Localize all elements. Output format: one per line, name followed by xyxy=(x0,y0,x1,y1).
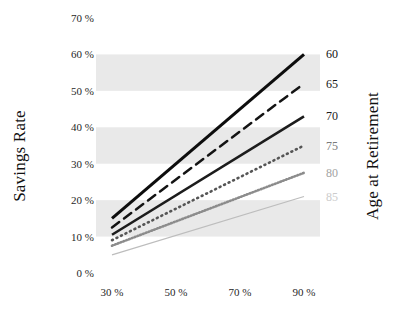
background-band xyxy=(96,127,320,163)
background-band xyxy=(96,54,320,90)
plot-svg xyxy=(96,18,320,273)
x-axis-tick-label: 50 % xyxy=(165,286,188,298)
line-chart: Savings Rate Age at Retirement 0 %10 %20… xyxy=(0,0,393,325)
x-axis-tick-label: 90 % xyxy=(293,286,316,298)
x-axis-tick-label: 30 % xyxy=(101,286,124,298)
x-axis-tick-label: 70 % xyxy=(229,286,252,298)
plot-area xyxy=(96,18,320,273)
